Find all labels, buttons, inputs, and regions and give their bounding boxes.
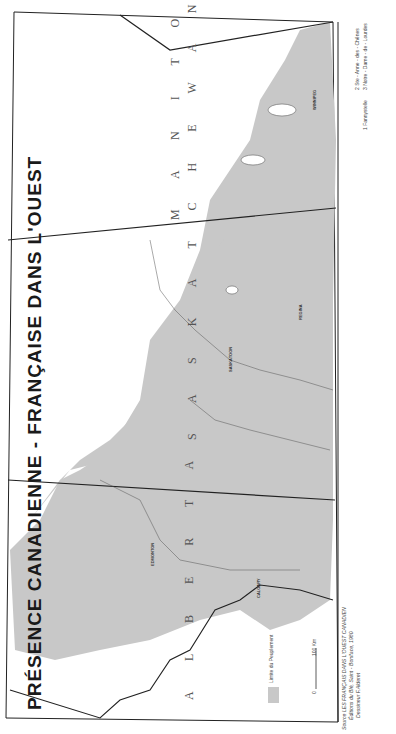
city-edmonton: EDMONTON	[150, 543, 155, 566]
map-stage: PRÉSENCE CANADIENNE - FRANÇAISE DANS L'O…	[0, 0, 396, 734]
footnote-2: 2 Ste - Anne - des - Chênes	[354, 28, 360, 90]
province-label-alberta: A L B E R T A	[182, 447, 197, 700]
city-regina: REGINA	[298, 304, 303, 320]
scale-zero: 0	[311, 691, 317, 694]
lake-sask	[226, 286, 238, 294]
footnote-1: 1 Fannystelle	[362, 100, 368, 130]
province-label-saskatchewan: S A S K A T C H E W A N	[185, 0, 200, 440]
lake-manitoba	[241, 155, 265, 165]
city-saskatoon: SASKATOON	[228, 347, 233, 372]
lake-winnipeg	[268, 104, 296, 116]
source-line-2: Éditions du Blé, Saint - Boniface, 1980	[348, 631, 354, 720]
footnote-3: 3 Notre - Dame - de - Lourdes	[362, 23, 368, 90]
scale-max: 100 Km	[311, 639, 317, 656]
city-winnipeg: WINNIPEG	[312, 90, 317, 110]
source-line-1: Source LES FRANÇAIS DANS L'OUEST CANADIE…	[341, 607, 347, 730]
legend-swatch	[268, 687, 279, 703]
legend-label: Limite du Peuplement	[268, 635, 274, 683]
province-label-manitoba: M A N I T O B A	[168, 0, 183, 220]
city-calgary: CALGARY	[256, 578, 261, 598]
map-title: PRÉSENCE CANADIENNE - FRANÇAISE DANS L'O…	[24, 156, 46, 710]
source-line-3: Dessineur F.Alderet	[355, 673, 361, 718]
